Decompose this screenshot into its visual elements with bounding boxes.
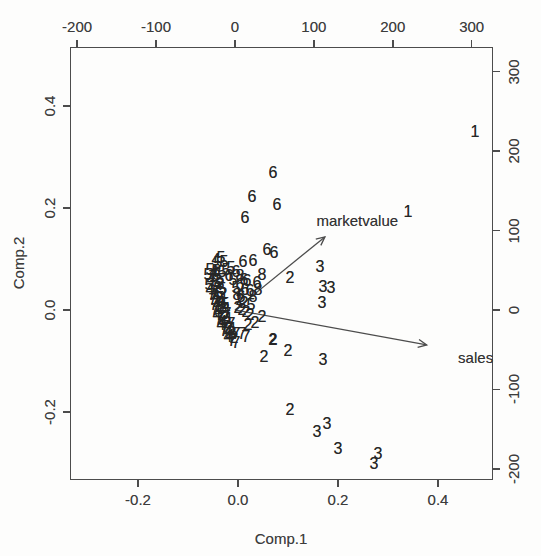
top-tick-label: -100 (141, 18, 171, 35)
right-tick-label: 200 (505, 139, 522, 164)
right-tick-label: -200 (505, 454, 522, 484)
right-tick (493, 150, 500, 152)
right-tick (493, 230, 500, 232)
x-tick-label: -0.2 (125, 491, 151, 508)
right-tick (493, 71, 500, 73)
plot-area (70, 47, 493, 480)
x-tick (137, 480, 139, 487)
right-tick-label: 300 (505, 59, 522, 84)
top-tick (234, 40, 236, 47)
y-tick (63, 207, 70, 209)
top-tick (155, 40, 157, 47)
right-tick-label: 100 (505, 218, 522, 243)
top-tick-label: 300 (459, 18, 484, 35)
y-tick-label: -0.2 (41, 399, 58, 425)
top-tick-label: 200 (380, 18, 405, 35)
pca-biplot-figure: -0.20.00.20.4-200-1000100200300-0.20.00.… (0, 0, 541, 556)
right-tick (493, 468, 500, 470)
right-tick (493, 309, 500, 311)
y-tick (63, 411, 70, 413)
right-tick (493, 389, 500, 391)
y-tick-label: 0.0 (41, 300, 58, 321)
top-tick (313, 40, 315, 47)
top-tick (471, 40, 473, 47)
x-tick (337, 480, 339, 487)
x-tick-label: 0.4 (428, 491, 449, 508)
y-tick (63, 309, 70, 311)
x-tick (437, 480, 439, 487)
y-tick (63, 105, 70, 107)
y-axis-title: Comp.2 (10, 237, 27, 290)
top-tick-label: 0 (231, 18, 239, 35)
top-tick-label: -200 (62, 18, 92, 35)
top-tick (392, 40, 394, 47)
y-tick-label: 0.4 (41, 95, 58, 116)
x-tick (237, 480, 239, 487)
x-tick-label: 0.2 (328, 491, 349, 508)
y-tick-label: 0.2 (41, 197, 58, 218)
top-tick (76, 40, 78, 47)
top-tick-label: 100 (301, 18, 326, 35)
x-axis-title: Comp.1 (255, 530, 308, 547)
right-tick-label: 0 (505, 306, 522, 314)
right-tick-label: -100 (505, 374, 522, 404)
x-tick-label: 0.0 (228, 491, 249, 508)
